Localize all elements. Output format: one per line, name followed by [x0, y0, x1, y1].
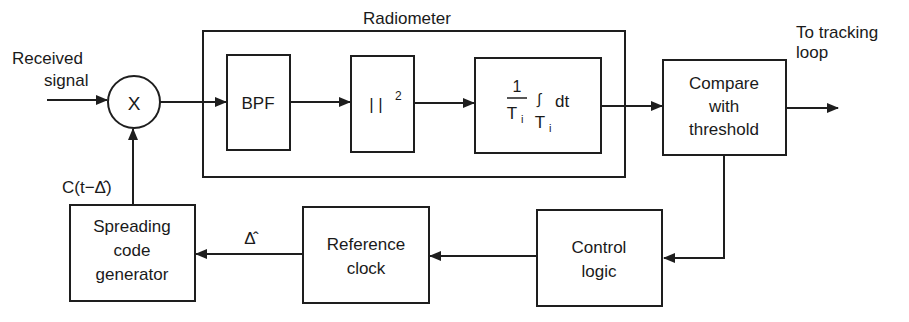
- compare-to-control-arrow: [664, 155, 724, 258]
- spreading-code-generator-block: Spreading code generator: [70, 205, 195, 301]
- svg-text:T: T: [535, 113, 545, 132]
- svg-text:loop: loop: [796, 43, 828, 62]
- reference-clock-block: Reference clock: [303, 207, 429, 303]
- radiometer-title: Radiometer: [363, 9, 451, 28]
- svg-text:with: with: [708, 97, 739, 116]
- svg-text:signal: signal: [44, 71, 88, 90]
- svg-text:dt: dt: [555, 92, 569, 111]
- multiplier-node: X: [108, 76, 160, 128]
- svg-text:Received: Received: [12, 49, 83, 68]
- svg-text:Control: Control: [572, 238, 627, 257]
- svg-text:1: 1: [513, 78, 522, 95]
- bpf-block: BPF: [227, 55, 290, 150]
- integrator-block: 1 T i ∫ dt T i: [475, 58, 601, 153]
- square-law-block: | | 2: [351, 56, 414, 152]
- svg-text:Reference: Reference: [327, 235, 405, 254]
- svg-text:T: T: [507, 104, 517, 123]
- svg-text:Spreading: Spreading: [93, 217, 171, 236]
- svg-text:To tracking: To tracking: [796, 23, 878, 42]
- svg-text:generator: generator: [96, 265, 169, 284]
- svg-text:code: code: [114, 241, 151, 260]
- svg-text:Compare: Compare: [689, 74, 759, 93]
- compare-threshold-block: Compare with threshold: [663, 60, 786, 155]
- svg-text:| |: | |: [369, 95, 383, 114]
- svg-text:clock: clock: [347, 259, 386, 278]
- svg-text:X: X: [128, 93, 141, 114]
- received-signal-label: Received signal: [12, 49, 88, 90]
- control-logic-block: Control logic: [537, 210, 662, 306]
- svg-text:2: 2: [395, 89, 402, 103]
- svg-text:BPF: BPF: [241, 94, 274, 113]
- code-signal-label: C(t−Δ̂): [62, 178, 112, 197]
- to-tracking-loop-label: To tracking loop: [796, 23, 878, 62]
- svg-text:threshold: threshold: [689, 120, 759, 139]
- svg-text:logic: logic: [582, 262, 617, 281]
- svg-text:i: i: [521, 113, 523, 125]
- delay-estimate-label: Δ̂: [244, 229, 258, 248]
- spread-spectrum-acquisition-diagram: Received signal X Radiometer BPF | | 2 1…: [0, 0, 909, 322]
- svg-text:i: i: [549, 122, 551, 134]
